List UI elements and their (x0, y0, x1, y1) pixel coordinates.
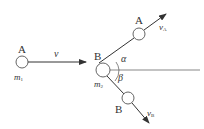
ball-b-circle (96, 63, 110, 77)
ball-b-final (122, 92, 134, 104)
velocity-v-label: v (54, 48, 59, 59)
beta-label: β (117, 72, 123, 83)
ball-b-label: B (94, 50, 101, 62)
velocity-va-label: vA (159, 22, 167, 32)
ball-b-target: B m2 (94, 50, 110, 89)
alpha-arc (116, 62, 119, 70)
path-a (99, 38, 134, 63)
alpha-label: α (121, 53, 127, 64)
ball-a-label: A (18, 43, 26, 55)
velocity-vb-label: vB (147, 108, 155, 118)
ball-a-final (133, 28, 145, 40)
ball-b-final-label: B (115, 103, 122, 115)
ball-a-final-label: A (135, 14, 143, 26)
ball-a-initial: A m1 (14, 43, 28, 82)
mass-1-label: m1 (14, 72, 24, 82)
mass-2-label: m2 (94, 79, 104, 89)
ball-a-circle (16, 56, 28, 68)
collision-diagram: A m1 v B m2 α β A vA B vB (0, 0, 204, 129)
